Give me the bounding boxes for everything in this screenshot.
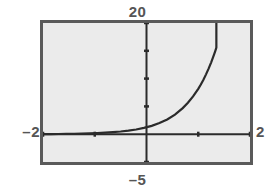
curve-exponential (43, 23, 216, 134)
plot-frame (40, 20, 253, 165)
x-min-label: –2 (12, 124, 40, 139)
plot-canvas (43, 23, 250, 162)
graph-screen: 20 –2 2 –5 (0, 0, 275, 195)
y-max-label: 20 (0, 4, 275, 19)
x-max-label: 2 (256, 124, 274, 139)
curve-group (43, 23, 216, 134)
axes-group (43, 23, 250, 162)
y-min-label: –5 (0, 172, 275, 187)
